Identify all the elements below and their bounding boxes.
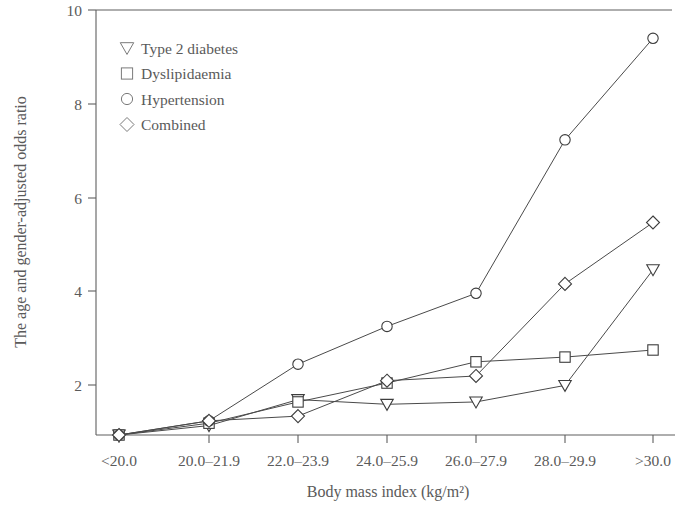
data-point bbox=[560, 135, 570, 145]
y-tick-label-10: 10 bbox=[67, 2, 83, 19]
legend-label: Combined bbox=[141, 116, 206, 133]
data-point bbox=[293, 359, 303, 369]
series-type-2-diabetes bbox=[113, 265, 659, 441]
y-axis-tick-labels: 10 8 6 4 2 bbox=[67, 2, 83, 394]
y-tick-label-8: 8 bbox=[74, 96, 82, 113]
data-point bbox=[648, 345, 658, 355]
x-tick-label-1: 20.0–21.9 bbox=[178, 452, 240, 469]
data-point bbox=[293, 397, 303, 407]
chart-canvas: 10 8 6 4 2 The age and gender-adjusted o… bbox=[0, 0, 675, 507]
series-dyslipidaemia bbox=[114, 345, 658, 440]
data-point bbox=[381, 399, 393, 410]
series-line bbox=[119, 270, 653, 435]
data-point bbox=[471, 288, 481, 298]
legend-label: Dyslipidaemia bbox=[141, 65, 232, 82]
x-axis-title: Body mass index (kg/m²) bbox=[307, 483, 470, 501]
legend-label: Hypertension bbox=[141, 91, 225, 108]
y-tick-label-6: 6 bbox=[74, 190, 82, 207]
y-tick-label-2: 2 bbox=[74, 377, 82, 394]
legend-item-combined: Combined bbox=[120, 116, 206, 133]
x-tick-label-3: 24.0–25.9 bbox=[356, 452, 418, 469]
legend-item-dyslipidaemia: Dyslipidaemia bbox=[121, 65, 231, 82]
x-axis-ticks bbox=[119, 435, 653, 443]
legend-marker-diamond-icon bbox=[120, 118, 134, 132]
odds-ratio-chart-figure: 10 8 6 4 2 The age and gender-adjusted o… bbox=[0, 0, 675, 507]
data-point bbox=[647, 216, 660, 229]
legend-label: Type 2 diabetes bbox=[141, 40, 238, 57]
chart-legend: Type 2 diabetesDyslipidaemiaHypertension… bbox=[120, 40, 238, 134]
x-axis-tick-labels: <20.0 20.0–21.9 22.0–23.9 24.0–25.9 26.0… bbox=[101, 452, 671, 469]
legend-marker-circle-icon bbox=[121, 93, 132, 104]
legend-item-hypertension: Hypertension bbox=[121, 91, 224, 108]
x-tick-label-6: >30.0 bbox=[635, 452, 671, 469]
x-tick-label-0: <20.0 bbox=[101, 452, 137, 469]
legend-item-type-2-diabetes: Type 2 diabetes bbox=[120, 40, 238, 57]
y-axis-ticks bbox=[88, 10, 96, 385]
legend-marker-square-icon bbox=[121, 68, 132, 79]
x-tick-label-2: 22.0–23.9 bbox=[267, 452, 329, 469]
legend-marker-triangle-down-icon bbox=[120, 43, 133, 55]
data-point bbox=[560, 352, 570, 362]
y-axis-title: The age and gender-adjusted odds ratio bbox=[12, 96, 30, 348]
data-point bbox=[647, 265, 659, 276]
data-point bbox=[648, 33, 658, 43]
y-tick-label-4: 4 bbox=[74, 283, 82, 300]
data-point bbox=[382, 321, 392, 331]
data-point bbox=[471, 357, 481, 367]
x-tick-label-4: 26.0–27.9 bbox=[445, 452, 507, 469]
data-point bbox=[292, 410, 305, 423]
x-tick-label-5: 28.0–29.9 bbox=[534, 452, 596, 469]
